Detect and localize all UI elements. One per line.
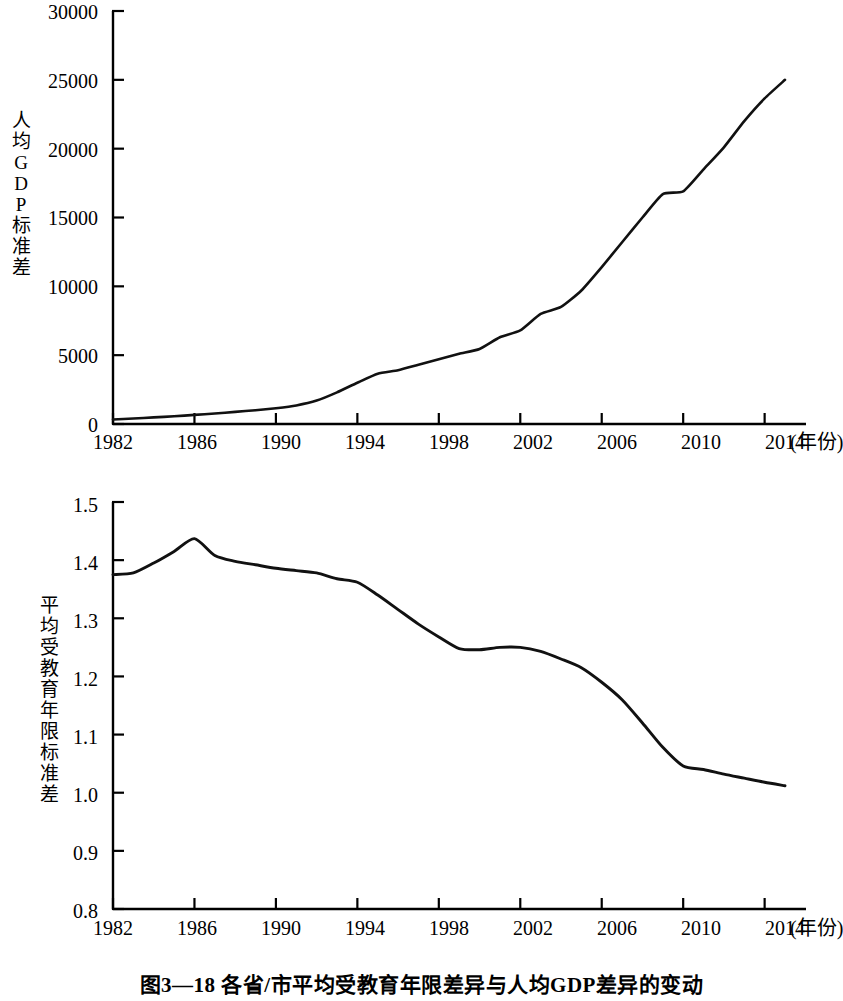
- x-tick-label: 1994: [325, 432, 405, 452]
- chart-panel-gdp: 人 均 G D P 标 准 差 30000 25000 20000 15000 …: [0, 0, 843, 470]
- chart-panel-schooling: 平 均 受 教 育 年 限 标 准 差 1.5 1.4 1.3 1.2 1.1 …: [0, 490, 843, 950]
- x-axis-unit-label: (年份): [790, 432, 843, 452]
- x-tick-label: 2010: [661, 918, 741, 938]
- figure-caption: 图3—18 各省/市平均受教育年限差异与人均GDP差异的变动: [0, 968, 843, 998]
- x-tick-label: 1982: [73, 918, 153, 938]
- x-tick-label: 1986: [157, 432, 237, 452]
- figure-container: 人 均 G D P 标 准 差 30000 25000 20000 15000 …: [0, 0, 843, 1001]
- plot-area-schooling: [0, 490, 843, 950]
- x-axis-unit-label: (年份): [790, 918, 843, 938]
- x-tick-label: 2006: [577, 432, 657, 452]
- x-tick-label: 1982: [73, 432, 153, 452]
- x-tick-label: 1994: [325, 918, 405, 938]
- x-tick-label: 1986: [157, 918, 237, 938]
- x-tick-label: 1990: [241, 918, 321, 938]
- x-tick-label: 1990: [241, 432, 321, 452]
- x-tick-label: 2002: [493, 918, 573, 938]
- x-tick-label: 1998: [409, 918, 489, 938]
- x-tick-label: 1998: [409, 432, 489, 452]
- data-line-schooling: [113, 539, 785, 786]
- x-tick-label: 2002: [493, 432, 573, 452]
- x-tick-label: 2006: [577, 918, 657, 938]
- x-tick-label: 2010: [661, 432, 741, 452]
- plot-area-gdp: [0, 0, 843, 470]
- data-line-gdp: [113, 80, 785, 420]
